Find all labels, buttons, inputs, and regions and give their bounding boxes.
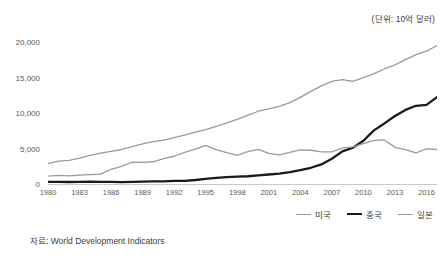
- unit-caption: (단위: 10억 달러): [372, 12, 435, 24]
- x-tick-label: 1989: [134, 188, 151, 197]
- source-note: 자료: World Development Indicators: [30, 234, 164, 246]
- series-lines: [48, 42, 437, 184]
- legend-line-icon: [398, 214, 413, 215]
- x-tick-label: 1983: [71, 188, 88, 197]
- legend-line-icon: [296, 214, 311, 215]
- y-tick-label: 15,000: [16, 73, 40, 82]
- y-tick-label: 20,000: [16, 38, 40, 47]
- x-axis-line: [48, 184, 437, 185]
- legend-item[interactable]: 미국: [296, 208, 331, 220]
- legend-item[interactable]: 중국: [347, 208, 382, 220]
- legend-label: 미국: [315, 208, 331, 220]
- series-line: [48, 46, 437, 164]
- x-tick-label: 2013: [387, 188, 404, 197]
- x-tick-label: 1980: [40, 188, 57, 197]
- x-tick-label: 1986: [103, 188, 120, 197]
- y-tick-label: 10,000: [16, 109, 40, 118]
- series-line: [48, 140, 437, 176]
- chart-figure: (단위: 10억 달러) 05,00010,00015,00020,000 19…: [0, 0, 445, 263]
- x-tick-label: 2004: [292, 188, 309, 197]
- x-tick-label: 1995: [197, 188, 214, 197]
- x-tick-label: 1992: [166, 188, 183, 197]
- legend-label: 일본: [417, 208, 433, 220]
- x-tick-label: 2016: [418, 188, 435, 197]
- x-tick-label: 2007: [324, 188, 341, 197]
- x-tick-label: 2010: [355, 188, 372, 197]
- legend: 미국중국일본: [296, 208, 433, 220]
- x-tick-label: 1998: [229, 188, 246, 197]
- x-axis: 1980198319861989199219951998200120042007…: [48, 186, 437, 200]
- legend-line-icon: [347, 213, 362, 215]
- plot-area: [48, 42, 437, 184]
- legend-item[interactable]: 일본: [398, 208, 433, 220]
- legend-label: 중국: [366, 208, 382, 220]
- x-tick-label: 2001: [260, 188, 277, 197]
- y-axis: 05,00010,00015,00020,000: [0, 42, 44, 184]
- y-tick-label: 5,000: [20, 144, 40, 153]
